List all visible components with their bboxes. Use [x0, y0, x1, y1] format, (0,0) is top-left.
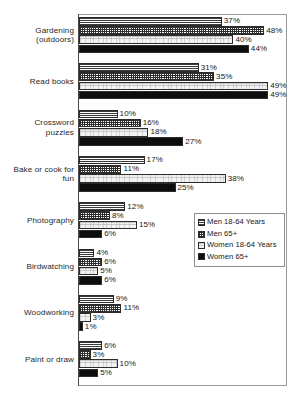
- bar-value-label: 37%: [222, 16, 240, 26]
- bar-value-label: 9%: [114, 294, 128, 304]
- bar-men-18-64: [79, 202, 125, 211]
- bar-value-label: 35%: [214, 72, 232, 82]
- legend-label: Women 18-64 Years: [207, 241, 277, 250]
- bar-women-18-64: [79, 174, 226, 183]
- bar-value-label: 49%: [268, 81, 286, 91]
- bar-value-label: 4%: [94, 248, 108, 258]
- bar-value-label: 44%: [249, 44, 267, 54]
- bar-men-65-plus: [79, 119, 141, 128]
- bar-value-label: 11%: [121, 164, 139, 174]
- bar-women-65-plus: [79, 230, 102, 239]
- legend-swatch-icon-women-18-64: [198, 242, 205, 249]
- bar-men-65-plus: [79, 26, 264, 35]
- category-label: Paint or draw: [0, 355, 74, 365]
- bar-women-18-64: [79, 359, 118, 368]
- legend-swatch-icon-women-65-plus: [198, 253, 205, 260]
- bar-men-65-plus: [79, 72, 214, 81]
- bar-women-65-plus: [79, 276, 102, 285]
- bar-value-label: 18%: [148, 127, 166, 137]
- bar-value-label: 10%: [118, 359, 136, 369]
- bar-women-65-plus: [79, 45, 249, 54]
- bar-value-label: 25%: [176, 183, 194, 193]
- category-label: Gardening(outdoors): [0, 26, 74, 45]
- bar-value-label: 3%: [91, 313, 105, 323]
- bar-value-label: 15%: [137, 220, 155, 230]
- category-label: Read books: [0, 77, 74, 87]
- bar-women-18-64: [79, 267, 98, 276]
- bar-men-65-plus: [79, 211, 110, 220]
- bar-value-label: 1%: [83, 322, 97, 332]
- bar-men-18-64: [79, 341, 102, 350]
- bar-men-18-64: [79, 17, 222, 26]
- bar-women-65-plus: [79, 91, 268, 100]
- bar-value-label: 6%: [102, 257, 116, 267]
- legend-label: Men 18-64 Years: [207, 218, 265, 227]
- category-label: Woodworking: [0, 308, 74, 318]
- bar-value-label: 5%: [98, 368, 112, 378]
- bar-women-18-64: [79, 128, 148, 137]
- bar-value-label: 6%: [102, 275, 116, 285]
- bar-value-label: 3%: [91, 350, 105, 360]
- bar-men-65-plus: [79, 304, 121, 313]
- bar-value-label: 12%: [125, 202, 143, 212]
- bar-value-label: 10%: [118, 109, 136, 119]
- bar-women-18-64: [79, 35, 233, 44]
- category-label: Photography: [0, 216, 74, 226]
- category-label: Bake or cook forfun: [0, 165, 74, 184]
- bar-value-label: 40%: [233, 35, 251, 45]
- bar-men-18-64: [79, 295, 114, 304]
- legend-swatch-icon-men-18-64: [198, 219, 205, 226]
- bar-value-label: 16%: [141, 118, 159, 128]
- bar-men-18-64: [79, 110, 118, 119]
- legend-item-women-18-64: Women 18-64 Years: [198, 240, 281, 251]
- bar-women-18-64: [79, 313, 91, 322]
- bar-value-label: 48%: [264, 26, 282, 36]
- bar-value-label: 38%: [226, 174, 244, 184]
- category-label: Crosswordpuzzles: [0, 118, 74, 137]
- bottom-cropped-caption: [6, 399, 246, 408]
- bar-value-label: 8%: [110, 211, 124, 221]
- top-cropped-text: [96, 0, 216, 9]
- grouped-bar-chart: Gardening(outdoors)37%48%40%44%Read book…: [0, 0, 303, 413]
- bar-men-65-plus: [79, 165, 121, 174]
- bar-women-18-64: [79, 82, 268, 91]
- bar-women-65-plus: [79, 369, 98, 378]
- bar-value-label: 49%: [268, 90, 286, 100]
- chart-legend: Men 18-64 Years Men 65+ Women 18-64 Year…: [194, 213, 285, 267]
- bar-value-label: 31%: [199, 63, 217, 73]
- bar-value-label: 11%: [121, 303, 139, 313]
- legend-item-men-18-64: Men 18-64 Years: [198, 217, 281, 228]
- legend-item-men-65-plus: Men 65+: [198, 228, 281, 239]
- bar-men-18-64: [79, 249, 94, 258]
- legend-label: Men 65+: [207, 230, 237, 239]
- legend-swatch-icon-men-65-plus: [198, 231, 205, 238]
- bar-women-65-plus: [79, 137, 183, 146]
- bar-men-18-64: [79, 63, 199, 72]
- bar-men-65-plus: [79, 350, 91, 359]
- bar-value-label: 27%: [183, 137, 201, 147]
- bar-value-label: 17%: [145, 155, 163, 165]
- bar-value-label: 6%: [102, 229, 116, 239]
- bar-value-label: 6%: [102, 341, 116, 351]
- legend-label: Women 65+: [207, 253, 248, 262]
- bar-men-65-plus: [79, 258, 102, 267]
- bar-men-18-64: [79, 156, 145, 165]
- category-label: Birdwatching: [0, 262, 74, 272]
- bar-women-65-plus: [79, 183, 176, 192]
- bar-women-18-64: [79, 221, 137, 230]
- bar-value-label: 5%: [98, 266, 112, 276]
- legend-item-women-65-plus: Women 65+: [198, 251, 281, 262]
